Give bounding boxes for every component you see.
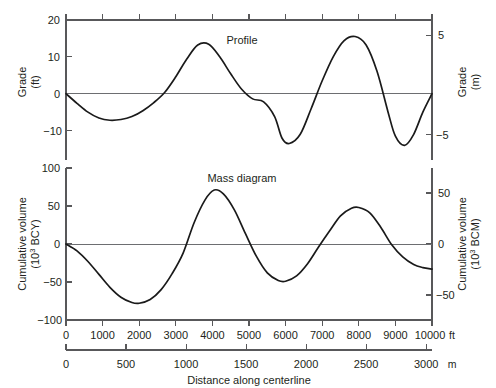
profile-top-ticks: [66, 14, 432, 20]
mass-left-axis-title-line1: Cumulative volume: [16, 197, 28, 291]
x-tick-ft-5: 5000: [237, 329, 261, 341]
x-tick-m-6: 3000: [414, 358, 438, 370]
x-axis-meters-ticks: [66, 344, 426, 350]
mass-right-tick-label-2: −50: [436, 289, 455, 301]
x-tick-ft-8: 8000: [347, 329, 371, 341]
profile-data-curve: [66, 36, 432, 145]
mass-data-curve: [66, 190, 432, 304]
x-tick-ft-4: 4000: [200, 329, 224, 341]
mass-left-unit-post: BCY): [29, 219, 41, 248]
x-tick-ft-0: 0: [63, 329, 69, 341]
mass-left-tick-label-2: 0: [54, 238, 60, 250]
profile-left-axis-title-line2: (ft): [29, 75, 41, 88]
profile-right-axis-title-line2: (m): [469, 74, 481, 91]
profile-right-axis-title: Grade (m): [456, 67, 481, 98]
profile-right-ticks: [426, 35, 432, 134]
x-tick-m-4: 2000: [294, 358, 318, 370]
mass-right-axis-title-line1: Cumulative volume: [456, 197, 468, 291]
x-tick-ft-9: 9000: [383, 329, 407, 341]
mass-left-tick-label-1: 50: [48, 200, 60, 212]
x-tick-m-2: 1000: [174, 358, 198, 370]
x-axis-feet-ticks: [66, 320, 432, 326]
profile-left-tick-label-0: 20: [48, 14, 60, 26]
profile-left-axis-title: Grade (ft): [16, 67, 41, 98]
mass-right-tick-label-0: 50: [438, 187, 450, 199]
mass-right-axis-title-line2: (103 BCM): [468, 218, 481, 269]
profile-left-tick-label-2: 0: [54, 88, 60, 100]
x-axis-title: Distance along centerline: [187, 374, 311, 386]
x-tick-ft-7: 7000: [310, 329, 334, 341]
x-tick-ft-10: 10000: [415, 329, 446, 341]
mass-left-axis-title-line2: (103 BCY): [28, 219, 41, 268]
x-axis-meters: 0 500 1000 1500 2000 2500 3000 m: [63, 344, 457, 370]
profile-left-ticks: [66, 20, 72, 131]
mass-diagram-panel: 100 50 0 −50 −100 50 0 −50 Cumulative vo…: [16, 162, 481, 326]
profile-left-tick-label-1: 10: [48, 51, 60, 63]
profile-left-tick-label-3: −10: [43, 125, 62, 137]
x-tick-ft-6: 6000: [273, 329, 297, 341]
mass-right-axis-title: Cumulative volume (103 BCM): [456, 197, 481, 291]
mass-panel-title: Mass diagram: [207, 172, 276, 184]
x-tick-ft-2: 2000: [127, 329, 151, 341]
mass-left-tick-label-4: −100: [37, 314, 62, 326]
x-tick-m-5: 2500: [354, 358, 378, 370]
profile-right-axis-title-line1: Grade: [456, 67, 468, 98]
profile-panel-title: Profile: [226, 34, 257, 46]
mass-right-tick-label-1: 0: [438, 238, 444, 250]
mass-left-unit-pre: (10: [29, 253, 41, 269]
x-tick-ft-3: 3000: [164, 329, 188, 341]
x-tick-m-0: 0: [63, 358, 69, 370]
mass-left-tick-label-0: 100: [42, 162, 60, 174]
mass-right-unit-post: BCM): [469, 218, 481, 249]
x-axis-unit-ft: ft: [449, 329, 455, 341]
figure-container: 20 10 0 −10 5 −5 Grade (ft) Grade (m) Pr…: [0, 0, 496, 388]
x-axis-unit-m: m: [448, 358, 457, 370]
x-tick-m-3: 1500: [234, 358, 258, 370]
dual-panel-chart: 20 10 0 −10 5 −5 Grade (ft) Grade (m) Pr…: [0, 0, 496, 388]
x-tick-ft-1: 1000: [90, 329, 114, 341]
x-axis-feet: 0 1000 2000 3000 4000 5000 6000 7000 800…: [63, 320, 455, 341]
profile-right-tick-label-0: 5: [438, 29, 444, 41]
profile-right-tick-label-1: −5: [436, 129, 449, 141]
mass-right-unit-pre: (10: [469, 254, 481, 270]
profile-left-axis-title-line1: Grade: [16, 67, 28, 98]
mass-left-tick-label-3: −50: [43, 276, 62, 288]
profile-panel: 20 10 0 −10 5 −5 Grade (ft) Grade (m) Pr…: [16, 14, 481, 160]
mass-left-axis-title: Cumulative volume (103 BCY): [16, 197, 41, 291]
x-tick-m-1: 500: [117, 358, 135, 370]
